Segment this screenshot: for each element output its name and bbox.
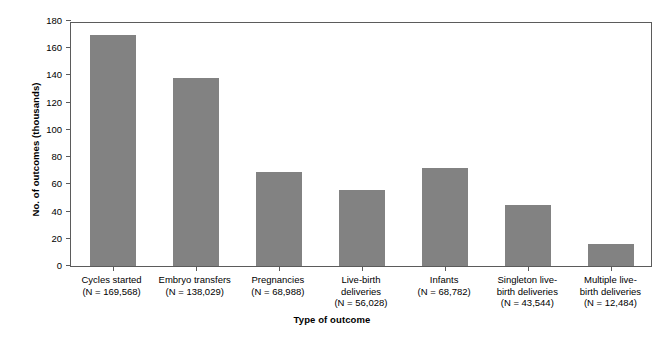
x-category-label: Multiple live- birth deliveries (N = 12,… [563, 274, 658, 309]
y-tick-mark [66, 211, 71, 212]
y-tick-mark [66, 238, 71, 239]
bar [90, 35, 136, 266]
y-tick-mark [66, 129, 71, 130]
x-tick-mark [279, 266, 280, 271]
bar [173, 78, 219, 266]
y-tick-label: 80 [51, 150, 62, 163]
x-category-label: Singleton live- birth deliveries (N = 43… [480, 274, 575, 309]
y-tick-label: 20 [51, 232, 62, 245]
y-tick-mark [66, 102, 71, 103]
x-axis-title: Type of outcome [0, 314, 664, 325]
y-tick-mark [66, 74, 71, 75]
y-tick-label: 180 [46, 14, 62, 27]
x-tick-mark [528, 266, 529, 271]
plot-area: 020406080100120140160180 [70, 22, 652, 267]
y-tick-mark [66, 20, 71, 21]
y-tick-label: 160 [46, 41, 62, 54]
y-tick-label: 140 [46, 68, 62, 81]
x-category-label: Cycles started (N = 169,568) [64, 274, 159, 297]
y-tick-mark [66, 183, 71, 184]
x-category-label: Infants (N = 68,782) [397, 274, 492, 297]
bar [505, 205, 551, 266]
x-tick-mark [362, 266, 363, 271]
bar-chart-figure: No. of outcomes (thousands) 020406080100… [0, 0, 664, 339]
y-tick-label: 120 [46, 96, 62, 109]
x-category-label: Embryo transfers (N = 138,029) [147, 274, 242, 297]
x-category-label: Pregnancies (N = 68,988) [230, 274, 325, 297]
bar [256, 172, 302, 266]
y-tick-label: 40 [51, 205, 62, 218]
x-tick-mark [611, 266, 612, 271]
y-tick-mark [66, 265, 71, 266]
y-tick-label: 0 [57, 259, 62, 272]
x-tick-mark [196, 266, 197, 271]
y-axis-title: No. of outcomes (thousands) [30, 35, 41, 265]
x-tick-mark [445, 266, 446, 271]
bar [588, 244, 634, 266]
x-tick-mark [113, 266, 114, 271]
y-tick-mark [66, 47, 71, 48]
x-category-label: Live-birth deliveries (N = 56,028) [313, 274, 408, 309]
bar [339, 190, 385, 266]
y-tick-label: 100 [46, 123, 62, 136]
y-tick-label: 60 [51, 177, 62, 190]
y-tick-mark [66, 156, 71, 157]
bar [422, 168, 468, 266]
